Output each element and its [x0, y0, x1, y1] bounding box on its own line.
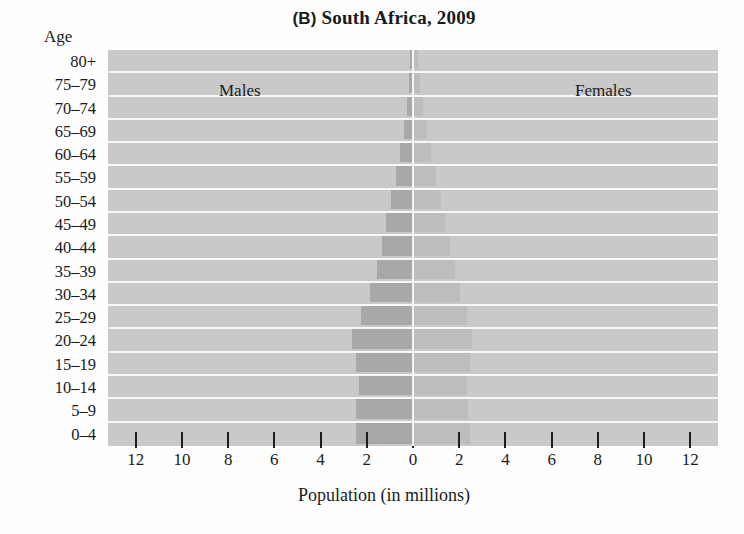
x-axis-tick	[458, 432, 460, 448]
x-axis-tick-label: 2	[455, 450, 464, 470]
y-axis-tick-label: 0–4	[0, 423, 102, 446]
bar-male	[386, 213, 413, 232]
series-label-females: Females	[575, 81, 632, 101]
y-axis-tick-label: 55–59	[0, 166, 102, 189]
bar-female	[413, 283, 460, 302]
bar-female	[413, 376, 467, 395]
plot-area: Males Females	[108, 50, 718, 446]
y-axis-tick-label: 75–79	[0, 73, 102, 96]
y-axis-tick-label: 65–69	[0, 120, 102, 143]
chart-figure: (B) South Africa, 2009 Age 80+75–7970–74…	[0, 0, 744, 534]
bar-male	[382, 236, 413, 255]
y-axis-tick-label: 40–44	[0, 236, 102, 259]
x-axis-tick	[227, 432, 229, 448]
bar-female	[413, 329, 472, 348]
x-axis-tick-label: 12	[682, 450, 699, 470]
y-axis-tick-label: 50–54	[0, 190, 102, 213]
y-axis-tick-label: 45–49	[0, 213, 102, 236]
x-axis-tick	[273, 432, 275, 448]
bar-female	[413, 213, 445, 232]
x-axis-tick	[551, 432, 553, 448]
y-axis-tick-labels: 80+75–7970–7465–6960–6455–5950–5445–4940…	[0, 50, 102, 446]
zero-axis-line	[412, 50, 414, 446]
y-axis-tick-label: 30–34	[0, 283, 102, 306]
panel-letter: (B)	[292, 9, 316, 28]
y-axis-caption: Age	[44, 27, 72, 47]
bar-female	[413, 166, 436, 185]
x-axis-tick-label: 2	[363, 450, 372, 470]
y-axis-tick-label: 10–14	[0, 376, 102, 399]
x-axis-tick-label: 10	[173, 450, 190, 470]
bar-male	[352, 329, 413, 348]
bar-male	[391, 190, 413, 209]
x-axis-tick-labels: 12108642024681012	[108, 450, 718, 474]
bar-female	[413, 97, 423, 116]
x-axis-tick-label: 6	[547, 450, 556, 470]
y-axis-tick-label: 20–24	[0, 329, 102, 352]
bar-female	[413, 120, 427, 139]
x-axis-tick	[504, 432, 506, 448]
bar-male	[396, 166, 413, 185]
x-axis-tick-label: 4	[501, 450, 510, 470]
bar-female	[413, 260, 455, 279]
y-axis-tick-label: 5–9	[0, 399, 102, 422]
bar-female	[413, 143, 431, 162]
x-axis-tick-label: 0	[409, 450, 418, 470]
series-label-males: Males	[219, 81, 261, 101]
x-axis-tick-label: 6	[270, 450, 279, 470]
x-axis-tick	[597, 432, 599, 448]
bar-female	[413, 190, 441, 209]
bar-female	[413, 236, 450, 255]
x-axis-tick-label: 8	[594, 450, 603, 470]
bar-male	[370, 283, 413, 302]
x-axis-tick	[181, 432, 183, 448]
x-axis-tick	[320, 432, 322, 448]
y-axis-tick-label: 80+	[0, 50, 102, 73]
y-axis-tick-label: 15–19	[0, 353, 102, 376]
bar-male	[356, 399, 413, 418]
bar-female	[413, 399, 468, 418]
bar-female	[413, 73, 420, 92]
bar-male	[361, 306, 413, 325]
bar-male	[359, 376, 413, 395]
x-axis-title: Population (in millions)	[0, 485, 744, 506]
x-axis-tick	[643, 432, 645, 448]
x-axis-tick-label: 12	[127, 450, 144, 470]
chart-title-text: South Africa, 2009	[317, 7, 476, 28]
bar-female	[413, 423, 470, 444]
y-axis-tick-label: 25–29	[0, 306, 102, 329]
bar-male	[377, 260, 413, 279]
y-axis-tick-label: 70–74	[0, 97, 102, 120]
bar-male	[356, 353, 413, 372]
chart-title: (B) South Africa, 2009	[0, 7, 744, 29]
y-axis-tick-label: 35–39	[0, 260, 102, 283]
bar-female	[413, 353, 470, 372]
x-axis-tick	[135, 432, 137, 448]
x-axis-tick	[366, 432, 368, 448]
x-axis-tick-label: 8	[224, 450, 233, 470]
y-axis-tick-label: 60–64	[0, 143, 102, 166]
bar-female	[413, 306, 467, 325]
x-axis-tick	[689, 432, 691, 448]
x-axis-tick-label: 10	[636, 450, 653, 470]
x-axis-tick-label: 4	[316, 450, 325, 470]
